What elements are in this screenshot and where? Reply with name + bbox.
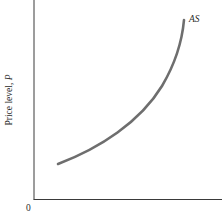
y-axis-label-text: Price level, xyxy=(4,80,14,125)
as-curve xyxy=(58,20,184,164)
aggregate-supply-chart xyxy=(0,0,224,224)
y-axis-label: Price level, P xyxy=(4,68,16,132)
origin-label: 0 xyxy=(26,203,31,213)
y-axis-label-var: P xyxy=(4,75,14,81)
as-curve-label: AS xyxy=(189,14,200,24)
